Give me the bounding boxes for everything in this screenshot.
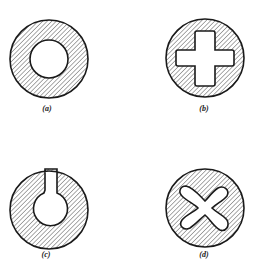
label-a: (a): [42, 104, 51, 113]
label-c: (c): [42, 250, 51, 259]
figure-c-keyhole: [10, 169, 88, 249]
label-d: (d): [199, 250, 208, 259]
label-b: (b): [199, 104, 208, 113]
figure-d-four-lobe-hole: [166, 169, 244, 247]
figure-a-hollow-circle: [10, 20, 88, 98]
figure-b-cross-hole: [166, 19, 244, 97]
cross-sections-diagram: [0, 0, 257, 261]
